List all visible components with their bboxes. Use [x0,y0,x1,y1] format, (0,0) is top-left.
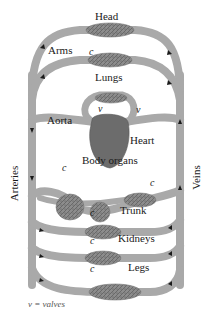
label-kidneys: Kidneys [118,233,155,244]
lungs-capillary-bed [95,93,127,103]
marker-valve: v [136,105,140,115]
label-legs: Legs [128,262,149,273]
marker-capillary: c [62,163,66,173]
label-head: Head [95,11,118,22]
marker-capillary: c [90,236,94,246]
label-heart: Heart [130,135,154,146]
marker-capillary: c [90,208,94,218]
vena-cava-vessel [125,117,180,122]
arms-capillary-bed [88,53,132,67]
label-lungs: Lungs [95,72,123,83]
legend-partial: v = valves [28,300,65,309]
label-body-organs: Body organs [82,155,138,166]
head-capillary-bed [86,23,134,37]
label-veins: Veins [191,158,202,198]
label-trunk: Trunk [120,205,147,216]
marker-capillary: c [90,264,94,274]
label-arteries: Arteries [9,162,20,206]
legs-capillary-bed [89,284,141,300]
marker-capillary: c [150,178,154,188]
marker-valve: v [98,104,102,114]
marker-capillary: c [89,47,93,57]
label-arms: Arms [48,45,72,56]
body-organs-capillary-bed-1 [56,194,84,220]
label-aorta: Aorta [47,115,72,126]
